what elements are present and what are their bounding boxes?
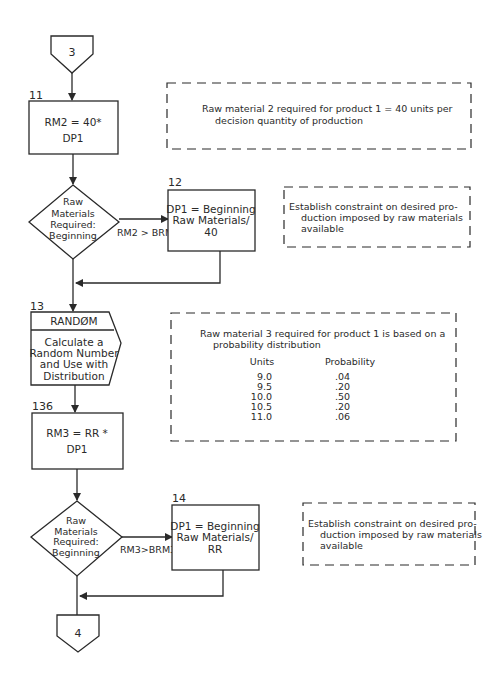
decision-2-line-1: Raw [66, 515, 86, 526]
table-header-units: Units [250, 356, 274, 367]
process-12-line-3: 40 [204, 226, 217, 238]
note-1-line-2: decision quantity of production [215, 115, 363, 126]
decision-1-line-1: Raw [63, 196, 83, 207]
subroutine-13-line-4: Distribution [43, 370, 104, 382]
decision-diamond-2: Raw Materials Required: Beginning [31, 501, 122, 576]
connector-start-label: 3 [69, 46, 76, 59]
table-cell-probability: .06 [335, 411, 350, 422]
decision-2-line-4: Beginning [52, 547, 100, 558]
decision-1-line-4: Beginning [49, 230, 97, 241]
process-box-14: DP1 = Beginning Raw Materials/ RR [170, 505, 259, 570]
process-11-line-2: DP1 [62, 132, 83, 144]
process-box-11: RM2 = 40* DP1 [29, 101, 118, 154]
decision-diamond-1: Raw Materials Required: Beginning [29, 185, 119, 259]
annotation-note-4: Establish constraint on desired pro- duc… [303, 503, 482, 565]
note-2-line-3: available [301, 223, 344, 234]
table-cell-units: 11.0 [251, 411, 272, 422]
subroutine-box-13: RANDØM Calculate a Random Number and Use… [30, 312, 122, 385]
note-4-line-1: Establish constraint on desired pro- [308, 518, 477, 529]
process-box-136: RM3 = RR * DP1 [32, 413, 123, 469]
connector-end-label: 4 [75, 627, 82, 640]
process-14-line-3: RR [208, 543, 223, 555]
offpage-connector-start: 3 [51, 36, 93, 73]
step-number-11: 11 [29, 89, 43, 102]
process-11-line-1: RM2 = 40* [44, 116, 101, 128]
decision-1-line-2: Materials [51, 208, 95, 219]
note-2-line-1: Establish constraint on desired pro- [289, 201, 458, 212]
decision-1-line-3: Required: [50, 219, 95, 230]
decision-2-line-3: Required: [53, 536, 98, 547]
note-2-line-2: duction imposed by raw materials [301, 212, 463, 223]
step-number-12: 12 [168, 176, 182, 189]
process-box-12: DP1 = Beginning Raw Materials/ 40 [166, 190, 255, 251]
annotation-note-3: Raw material 3 required for product 1 is… [171, 313, 456, 441]
step-number-13: 13 [30, 300, 44, 313]
table-row: 11.0 .06 [251, 411, 350, 422]
note-3-line-2: probability distribution [213, 339, 321, 350]
note-3-line-1: Raw material 3 required for product 1 is… [200, 328, 445, 339]
process-136-line-1: RM3 = RR * [46, 427, 108, 439]
note-4-line-2: duction imposed by raw materials [320, 529, 482, 540]
subroutine-13-header: RANDØM [50, 315, 97, 327]
process-14-line-2: Raw Materials/ [176, 531, 254, 543]
annotation-note-1: Raw material 2 required for product 1 = … [167, 83, 471, 149]
subroutine-13-line-3: and Use with [40, 358, 108, 370]
step-number-136: 136 [32, 400, 53, 413]
note-4-line-3: available [320, 540, 363, 551]
annotation-note-2: Establish constraint on desired pro- duc… [284, 187, 470, 247]
flow-return-arrow [76, 251, 220, 283]
step-number-14: 14 [172, 492, 186, 505]
decision-2-condition: RM3>BRM3 [120, 544, 176, 555]
table-header-probability: Probability [325, 356, 376, 367]
process-12-line-2: Raw Materials/ [172, 214, 250, 226]
flow-return-arrow [80, 570, 223, 596]
process-136-line-2: DP1 [66, 443, 87, 455]
note-1-line-1: Raw material 2 required for product 1 = … [202, 103, 453, 114]
offpage-connector-end: 4 [57, 615, 99, 652]
